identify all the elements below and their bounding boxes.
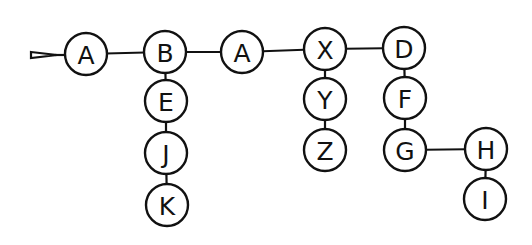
node-label: A [77, 41, 94, 70]
node-b: B [144, 31, 186, 73]
node-d: D [383, 27, 425, 69]
node-y: Y [304, 78, 346, 120]
node-label: G [395, 137, 414, 166]
node-label: D [394, 35, 413, 64]
node-x: X [304, 28, 346, 70]
entry-arrow-icon [31, 52, 57, 58]
node-label: H [477, 136, 496, 165]
node-label: K [159, 192, 176, 221]
node-a: A [65, 33, 107, 75]
node-label: F [398, 85, 412, 114]
node-label: B [156, 39, 173, 68]
node-k: K [146, 184, 188, 226]
node-label: E [158, 88, 174, 117]
node-a: A [221, 31, 263, 73]
node-j: J [145, 132, 187, 174]
node-label: Y [316, 86, 333, 115]
node-label: A [233, 39, 250, 68]
node-label: J [160, 140, 169, 169]
node-i: I [464, 178, 506, 220]
nodes-layer: ABAXDEJKYZFGHI [65, 27, 507, 226]
edges-layer [86, 48, 486, 205]
node-label: I [481, 186, 488, 215]
node-h: H [465, 128, 507, 170]
node-e: E [145, 80, 187, 122]
diagram-canvas: ABAXDEJKYZFGHI [0, 0, 532, 245]
node-f: F [384, 77, 426, 119]
node-label: X [316, 36, 333, 65]
tree-diagram: ABAXDEJKYZFGHI [0, 0, 532, 245]
node-z: Z [304, 129, 346, 171]
node-g: G [384, 129, 426, 171]
entry-arrow-icon [31, 52, 64, 58]
node-label: Z [316, 137, 333, 166]
